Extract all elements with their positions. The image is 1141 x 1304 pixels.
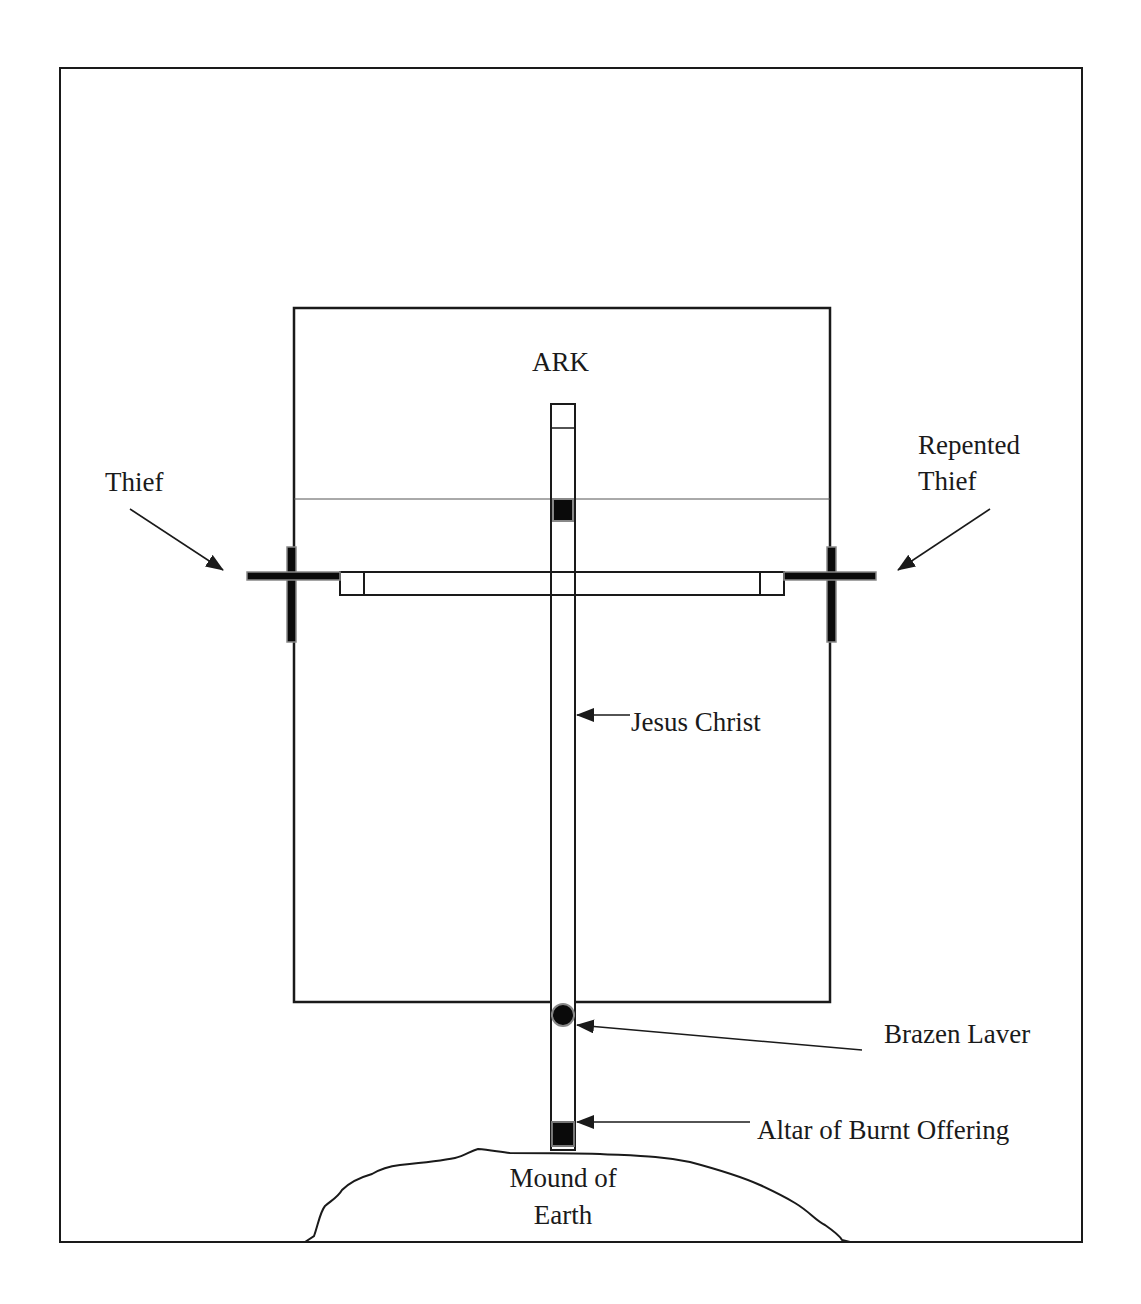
thief-arrow [130,509,223,570]
altar-label: Altar of Burnt Offering [757,1112,1009,1148]
tabernacle-cross-diagram [0,0,1141,1304]
mound-label-line1: Mound of [483,1160,643,1196]
repented-thief-cross [784,547,876,642]
thief-cross [247,547,340,642]
ark-square-icon [553,499,573,521]
brazen-laver-arrow [577,1025,862,1050]
mound-label-line2: Earth [483,1197,643,1233]
repented-thief-arrow [898,509,990,570]
repented-thief-label-line2: Thief [918,463,976,499]
brazen-laver-icon [552,1004,574,1026]
thief-label: Thief [105,464,163,500]
ark-label: ARK [532,344,589,380]
jesus-christ-label: Jesus Christ [631,704,761,740]
altar-square-icon [552,1122,574,1146]
brazen-laver-label: Brazen Laver [884,1016,1030,1052]
repented-thief-label-line1: Repented [918,427,1020,463]
